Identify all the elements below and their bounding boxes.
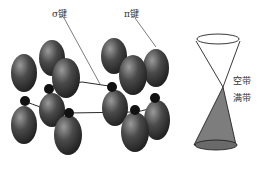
conduction-band-label: 空带 [233,76,251,86]
left-orbital-cluster [11,40,82,155]
valence-cone [194,87,236,145]
pi-bond-label: π键 [124,9,139,19]
dirac-cone [194,34,240,150]
valence-band-label: 满带 [233,93,251,103]
right-orbital-cluster [101,38,170,152]
graphene-band-diagram: σ键 π键 空带 满带 [0,0,267,174]
diagram-canvas [0,0,267,174]
pi-leader-line [135,18,156,47]
sigma-bond-label: σ键 [52,9,67,19]
conduction-cone-top [197,34,239,44]
valence-cone-base [195,140,237,150]
